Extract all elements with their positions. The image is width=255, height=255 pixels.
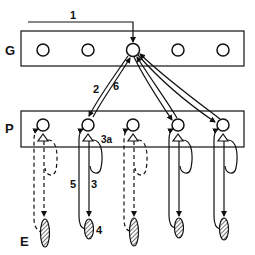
e-effector-2 (85, 219, 94, 239)
row-label-p: P (5, 121, 14, 136)
edge-label-5: 5 (70, 178, 76, 190)
row-label-g: G (5, 43, 15, 58)
edge-label-6: 6 (113, 80, 119, 92)
edge-p5-to-g (140, 54, 220, 119)
e-effector-5 (220, 218, 229, 240)
edge-5-node-2 (79, 129, 85, 229)
loop-3a-node-2 (90, 140, 102, 173)
g-node-5 (217, 44, 229, 56)
loop-3a-node-5 (225, 140, 237, 173)
edge-label-3a: 3a (101, 134, 113, 145)
edge-label-1: 1 (70, 9, 76, 21)
loop-3a-node-1 (45, 140, 57, 175)
p-node-1 (37, 119, 49, 141)
edge-g-to-p5 (138, 55, 215, 122)
edge-5-node-4 (169, 129, 175, 228)
e-effector-3 (130, 218, 139, 246)
p-node-2 (82, 119, 94, 141)
network-diagram: G 1 P 2 6 3a (0, 0, 255, 255)
loop-3a-node-3 (135, 140, 147, 175)
row-label-e: E (20, 234, 29, 249)
e-effector-1 (41, 219, 50, 247)
p-node-5 (217, 119, 229, 141)
g-node-2 (82, 44, 94, 56)
p-node-4 (172, 119, 184, 141)
loop-3a-node-4 (180, 140, 192, 173)
edge-label-2: 2 (93, 83, 99, 95)
edge-5-node-5 (214, 129, 220, 229)
edge-label-4: 4 (96, 224, 103, 236)
e-effector-4 (175, 218, 184, 238)
edge-5-node-3 (124, 129, 130, 231)
p-node-3 (127, 119, 139, 141)
edge-5-node-1 (34, 129, 43, 233)
g-node-center (127, 44, 140, 57)
g-node-1 (37, 44, 49, 56)
edge-1 (28, 22, 133, 42)
edge-label-3: 3 (91, 178, 97, 190)
g-node-4 (172, 44, 184, 56)
